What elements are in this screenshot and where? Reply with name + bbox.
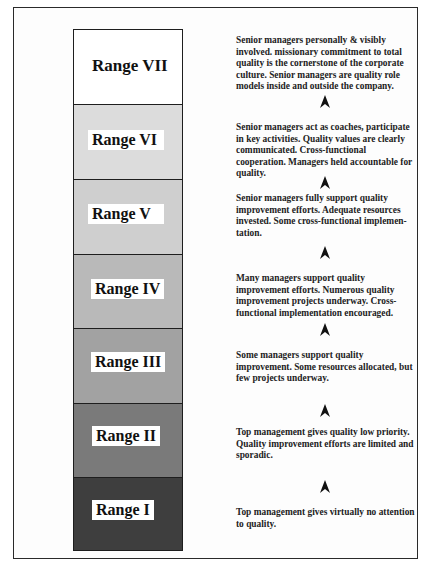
- up-arrowhead-icon: [320, 246, 330, 259]
- range-vi-label: Range VI: [88, 130, 164, 150]
- range-i-label: Range I: [92, 500, 154, 520]
- band-range-v: Range V: [74, 179, 182, 254]
- up-arrowhead-icon: [320, 323, 330, 336]
- band-range-i: Range I: [74, 477, 182, 550]
- range-v-label: Range V: [88, 204, 164, 224]
- up-arrowhead-icon: [320, 95, 330, 108]
- range-column: Range VII Range VI Range V Range IV Rang…: [73, 29, 183, 551]
- band-range-ii: Range II: [74, 403, 182, 477]
- range-vii-label: Range VII: [88, 56, 172, 76]
- range-ii-label: Range II: [92, 426, 160, 446]
- range-iv-label: Range IV: [91, 279, 164, 299]
- range-v-description: Senior managers fully support quality im…: [236, 193, 416, 239]
- band-range-vii: Range VII: [74, 30, 182, 104]
- up-arrowhead-icon: [320, 176, 330, 189]
- band-range-iv: Range IV: [74, 254, 182, 328]
- range-i-description: Top management gives virtually no attent…: [236, 507, 416, 530]
- band-range-iii: Range III: [74, 328, 182, 403]
- range-iii-description: Some managers support quality improvemen…: [236, 350, 416, 385]
- range-ii-description: Top management gives quality low priorit…: [236, 427, 416, 462]
- range-iv-description: Many managers support quality improvemen…: [236, 273, 418, 319]
- up-arrowhead-icon: [320, 404, 330, 417]
- band-range-vi: Range VI: [74, 104, 182, 179]
- up-arrowhead-icon: [320, 480, 330, 493]
- range-iii-label: Range III: [91, 352, 165, 372]
- range-vi-description: Senior managers act as coaches, particip…: [236, 122, 416, 180]
- range-vii-description: Senior managers personally & visibly inv…: [236, 35, 416, 93]
